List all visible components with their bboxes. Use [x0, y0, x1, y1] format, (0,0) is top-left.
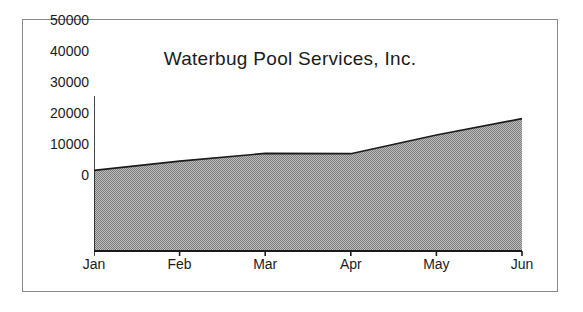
chart-figure: Waterbug Pool Services, Inc. 50000 40000… — [0, 0, 583, 312]
x-tick-label: Feb — [158, 256, 202, 272]
x-tick-label: Apr — [329, 256, 373, 272]
chart-title: Waterbug Pool Services, Inc. — [23, 48, 557, 70]
y-tick-label: 20000 — [50, 106, 89, 120]
x-axis-tick-labels: Jan Feb Mar Apr May Jun — [94, 256, 522, 278]
area-series-revenue — [94, 119, 522, 251]
x-tick-label: Mar — [243, 256, 287, 272]
y-tick-label: 50000 — [50, 13, 89, 27]
y-axis-tick-labels: 50000 40000 30000 20000 10000 0 — [23, 20, 89, 291]
y-tick-label: 10000 — [50, 137, 89, 151]
x-tick-label: May — [414, 256, 458, 272]
y-tick-label: 0 — [81, 168, 89, 182]
x-tick-label: Jan — [72, 256, 116, 272]
x-tick-label: Jun — [500, 256, 544, 272]
plot-area — [94, 96, 522, 251]
y-tick-label: 40000 — [50, 44, 89, 58]
chart-frame: Waterbug Pool Services, Inc. 50000 40000… — [22, 19, 558, 292]
area-chart-svg — [94, 96, 534, 266]
y-tick-label: 30000 — [50, 75, 89, 89]
